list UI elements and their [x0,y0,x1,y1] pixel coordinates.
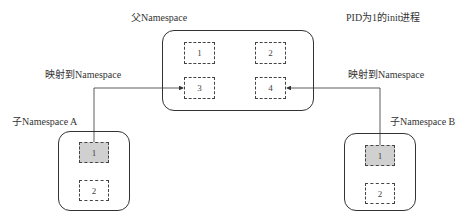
mapping-arrows [0,0,463,222]
arrow-child-b-to-pid-4 [287,88,380,145]
arrow-child-a-to-pid-3 [94,88,183,142]
